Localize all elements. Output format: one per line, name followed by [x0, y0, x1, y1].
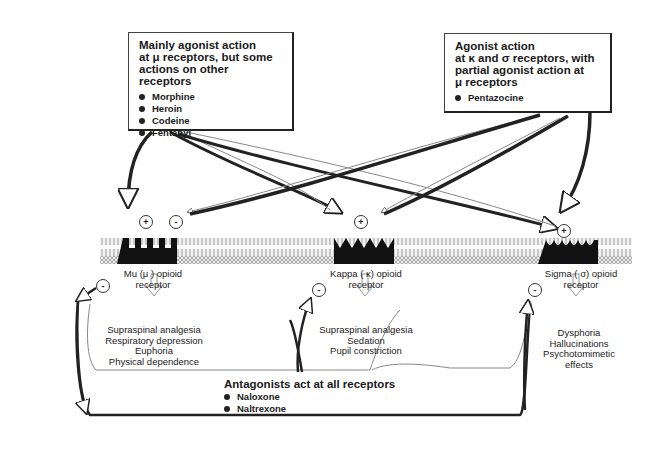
drug-name: Naloxone [237, 391, 280, 403]
bullet-icon [455, 95, 461, 101]
effect: Supraspinal analgesia [306, 325, 426, 336]
bullet-icon [224, 394, 230, 400]
drug-item: Heroin [139, 103, 282, 115]
title-line: partial agonist action at [455, 64, 600, 76]
drug-name: Naltrexone [237, 403, 286, 415]
bullet-icon [139, 130, 145, 136]
mainly-agonist-box: Mainly agonist action at μ receptors, bu… [128, 32, 294, 131]
bullet-icon [224, 406, 230, 412]
drug-name: Fentanyl [152, 127, 191, 139]
receptor-name: Sigma ( σ) opioid [536, 268, 626, 279]
kappa-receptor-label: Kappa ( κ) opioid receptor [320, 268, 412, 290]
effect: effects [526, 360, 632, 371]
sigma-effects: Dysphoria Hallucinations Psychotomimetic… [526, 328, 632, 370]
receptor-name: receptor [536, 279, 626, 290]
cell-membrane [100, 238, 632, 264]
antagonists-section: Antagonists act at all receptors Naloxon… [224, 378, 395, 415]
partial-drug-list: Pentazocine [455, 92, 600, 104]
title-line: μ receptors [455, 76, 600, 88]
bullet-icon [139, 94, 145, 100]
plus-sign-sigma: + [557, 224, 571, 238]
receptor-name: Mu (μ ) opioid [108, 268, 198, 279]
title-line: Agonist action [455, 40, 600, 52]
drug-item: Codeine [139, 115, 282, 127]
drug-name: Pentazocine [468, 92, 523, 104]
receptor-name: Kappa ( κ) opioid [320, 268, 412, 279]
effect: Supraspinal analgesia [94, 325, 214, 336]
effect: Pupil constriction [306, 346, 426, 357]
drug-item: Fentanyl [139, 127, 282, 139]
minus-sign-mu: - [169, 215, 183, 229]
antagonist-drug-list: Naloxone Naltrexone [224, 391, 395, 415]
agonist-drug-list: Morphine Heroin Codeine Fentanyl [139, 91, 282, 139]
mu-receptor-label: Mu (μ ) opioid receptor [108, 268, 198, 290]
effect: Psychotomimetic [526, 349, 632, 360]
title-line: at μ receptors, but some [139, 51, 282, 63]
title-line: at κ and σ receptors, with [455, 52, 600, 64]
bullet-icon [139, 118, 145, 124]
antagonists-title: Antagonists act at all receptors [224, 378, 395, 390]
drug-item: Naloxone [224, 391, 395, 403]
receptor-name: receptor [108, 279, 198, 290]
effect: Physical dependence [94, 357, 214, 368]
drug-item: Pentazocine [455, 92, 600, 104]
partial-agonist-title: Agonist action at κ and σ receptors, wit… [455, 40, 600, 88]
kappa-effects: Supraspinal analgesia Sedation Pupil con… [306, 325, 426, 357]
effect: Euphoria [94, 346, 214, 357]
bullet-icon [139, 106, 145, 112]
effect: Dysphoria [526, 328, 632, 339]
plus-sign-kappa: + [354, 215, 368, 229]
title-line: actions on other receptors [139, 63, 282, 87]
drug-name: Morphine [152, 91, 195, 103]
partial-agonist-box: Agonist action at κ and σ receptors, wit… [444, 33, 612, 113]
mainly-agonist-title: Mainly agonist action at μ receptors, bu… [139, 39, 282, 87]
sigma-receptor-label: Sigma ( σ) opioid receptor [536, 268, 626, 290]
drug-name: Codeine [152, 115, 189, 127]
plus-sign-mu: + [139, 215, 153, 229]
receptor-name: receptor [320, 279, 412, 290]
mu-effects: Supraspinal analgesia Respiratory depres… [94, 325, 214, 367]
drug-item: Morphine [139, 91, 282, 103]
drug-item: Naltrexone [224, 403, 395, 415]
title-line: Mainly agonist action [139, 39, 282, 51]
drug-name: Heroin [152, 103, 182, 115]
